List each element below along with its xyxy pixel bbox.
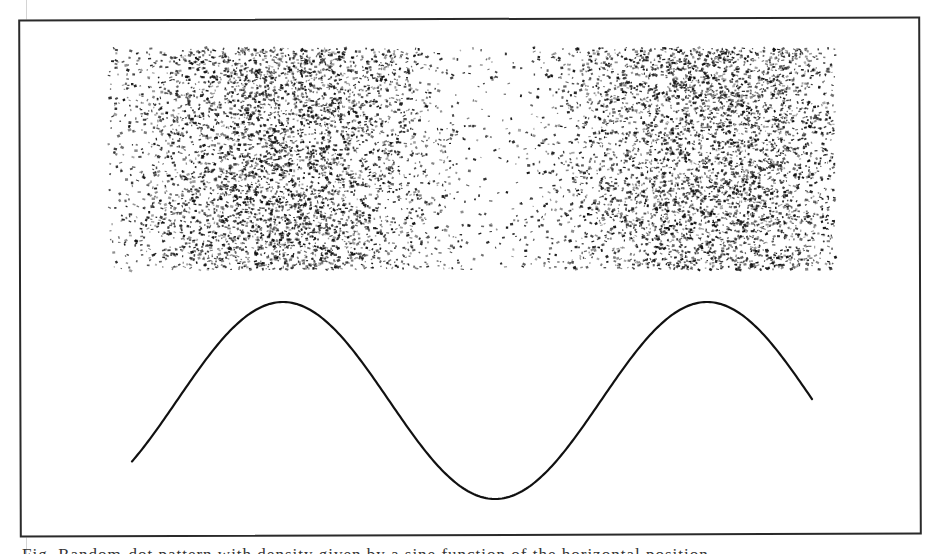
random-dot-density-panel [107, 46, 837, 273]
sine-curve [132, 302, 812, 499]
figure-caption: Fig. Random-dot pattern with density giv… [22, 545, 922, 554]
figure-canvas [0, 0, 940, 554]
